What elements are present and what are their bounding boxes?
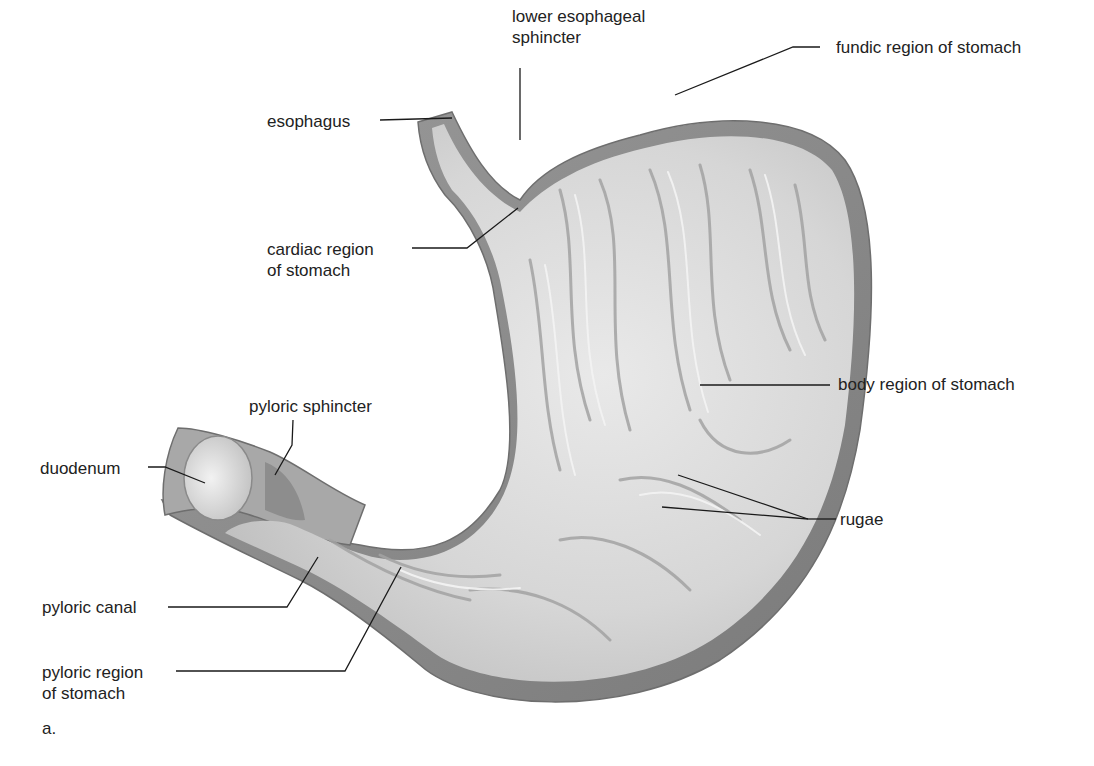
label-text: fundic region of stomach bbox=[836, 38, 1021, 57]
label-lower-esophageal-sphincter: lower esophageal sphincter bbox=[512, 6, 645, 48]
label-text: sphincter bbox=[512, 27, 645, 48]
panel-label: a. bbox=[42, 718, 56, 739]
label-body-region: body region of stomach bbox=[838, 374, 1015, 395]
label-text: esophagus bbox=[267, 112, 350, 131]
label-pyloric-sphincter: pyloric sphincter bbox=[249, 396, 372, 417]
label-pyloric-canal: pyloric canal bbox=[42, 597, 137, 618]
label-rugae: rugae bbox=[840, 509, 883, 530]
label-text: lower esophageal bbox=[512, 6, 645, 27]
label-text: pyloric region bbox=[42, 662, 143, 683]
label-text: cardiac region bbox=[267, 239, 374, 260]
label-text: of stomach bbox=[267, 260, 374, 281]
stomach-anatomy-diagram: lower esophageal sphincter esophagus fun… bbox=[0, 0, 1094, 766]
panel-label-text: a. bbox=[42, 719, 56, 738]
label-pyloric-region: pyloric region of stomach bbox=[42, 662, 143, 704]
label-text: pyloric canal bbox=[42, 598, 137, 617]
label-text: body region of stomach bbox=[838, 375, 1015, 394]
leader-fundic-region bbox=[675, 47, 820, 95]
label-cardiac-region: cardiac region of stomach bbox=[267, 239, 374, 281]
label-esophagus: esophagus bbox=[267, 111, 350, 132]
label-fundic-region: fundic region of stomach bbox=[836, 37, 1021, 58]
label-duodenum: duodenum bbox=[40, 458, 120, 479]
label-text: pyloric sphincter bbox=[249, 397, 372, 416]
label-text: duodenum bbox=[40, 459, 120, 478]
label-text: of stomach bbox=[42, 683, 143, 704]
label-text: rugae bbox=[840, 510, 883, 529]
